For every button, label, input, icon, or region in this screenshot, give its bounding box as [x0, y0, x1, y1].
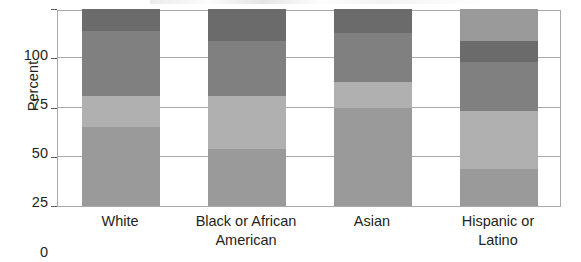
x-category-label: Black or AfricanAmerican — [176, 212, 316, 250]
bar-hispanic-or-latino[interactable] — [460, 9, 538, 206]
x-category-label-line: Asian — [302, 212, 442, 231]
bar-black-or-african-american[interactable] — [208, 9, 286, 206]
x-category-label-line: Hispanic or — [428, 212, 568, 231]
bar-segment[interactable] — [208, 96, 286, 149]
x-category-label-line: Black or African — [176, 212, 316, 231]
bar-segment[interactable] — [460, 62, 538, 111]
bar-asian[interactable] — [334, 9, 412, 206]
x-category-label: White — [50, 212, 190, 231]
bar-segment[interactable] — [82, 9, 160, 31]
bar-segment[interactable] — [334, 33, 412, 82]
bar-segment[interactable] — [82, 127, 160, 206]
y-tick-label: 0 — [14, 245, 48, 260]
bar-segment[interactable] — [334, 82, 412, 108]
x-category-label: Hispanic orLatino — [428, 212, 568, 250]
y-tick-label: 100 — [14, 48, 48, 63]
cropped-title-artifact — [150, 0, 480, 4]
x-category-label-line: White — [50, 212, 190, 231]
bar-segment[interactable] — [460, 41, 538, 63]
y-axis-tick-labels: 0255075100 — [10, 0, 48, 262]
bar-segment[interactable] — [460, 111, 538, 168]
bar-segment[interactable] — [208, 9, 286, 41]
x-category-label-line: American — [176, 231, 316, 250]
x-category-label: Asian — [302, 212, 442, 231]
y-tick-label: 50 — [14, 146, 48, 161]
plot-area — [57, 10, 561, 207]
bar-segment[interactable] — [82, 96, 160, 128]
x-category-label-line: Latino — [428, 231, 568, 250]
bar-segment[interactable] — [208, 149, 286, 206]
y-tick-label: 25 — [14, 195, 48, 210]
bar-segment[interactable] — [460, 9, 538, 41]
y-tick-label: 75 — [14, 97, 48, 112]
bar-segment[interactable] — [460, 169, 538, 206]
stacked-bar-chart: Percent 0255075100 WhiteBlack or African… — [0, 0, 581, 262]
bar-segment[interactable] — [334, 9, 412, 33]
bar-segment[interactable] — [208, 41, 286, 96]
bar-white[interactable] — [82, 9, 160, 206]
bar-segment[interactable] — [82, 31, 160, 96]
bar-segment[interactable] — [334, 108, 412, 207]
